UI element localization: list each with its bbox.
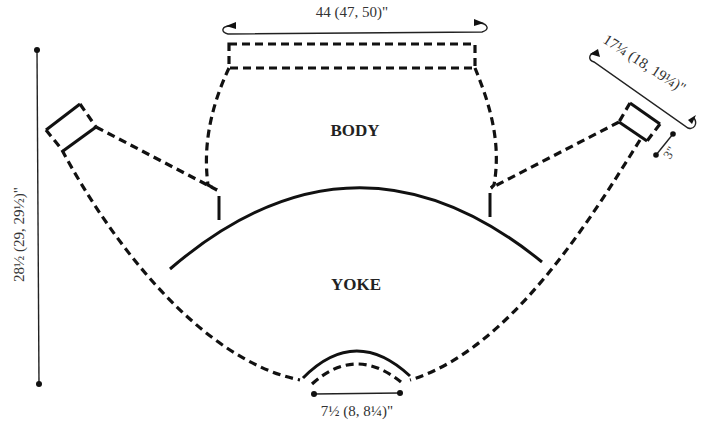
- yoke-piece: [62, 140, 640, 384]
- neck-width-line: [314, 393, 400, 394]
- right-sleeve-top: [491, 122, 619, 188]
- cuff-dot-bottom: [653, 152, 659, 158]
- length-dot-top: [34, 47, 40, 53]
- left-sleeve-top: [96, 127, 217, 190]
- cuff-dot-top: [670, 131, 676, 137]
- right-cuff-bottom-side: [647, 124, 660, 141]
- right-sleeve: [491, 103, 660, 188]
- body-width-line: [223, 23, 487, 34]
- body-width-label: 44 (47, 50)": [316, 4, 388, 21]
- yoke-left-outer: [62, 150, 300, 380]
- neck-width-label: 7½ (8, 8¼)": [321, 403, 393, 420]
- left-cuff-inner: [63, 127, 96, 151]
- right-cuff-top-side: [619, 103, 630, 122]
- neck-width-measure: 7½ (8, 8¼)": [311, 390, 403, 420]
- yoke-right-outer: [410, 140, 640, 380]
- left-cuff-edge: [46, 104, 80, 130]
- arrow-left-icon: [226, 22, 236, 29]
- sleeve-length-label: 17¼ (18, 19¼)": [600, 31, 689, 97]
- left-sleeve: [46, 104, 217, 190]
- right-cuff-inner: [619, 122, 647, 141]
- yoke-label: YOKE: [331, 275, 381, 294]
- neck-edge: [303, 351, 410, 378]
- length-dot-bottom: [36, 381, 42, 387]
- arrow-right-icon: [474, 19, 484, 26]
- neck-dot-right: [397, 390, 403, 396]
- left-cuff-top-side: [80, 104, 96, 127]
- body-left-side: [206, 68, 229, 190]
- right-cuff-edge: [630, 103, 660, 124]
- body-width-measure: 44 (47, 50)": [223, 4, 487, 34]
- neck-band: [312, 364, 401, 384]
- cuff-measure: 3": [653, 131, 679, 161]
- body-label: BODY: [330, 121, 379, 140]
- arrow-up-icon: [590, 49, 600, 57]
- schematic-canvas: 44 (47, 50)" 17¼ (18, 19¼)" 3" 28½ (29, …: [0, 0, 720, 423]
- total-length-label: 28½ (29, 29½)": [11, 187, 28, 282]
- total-length-line: [37, 50, 39, 384]
- total-length-measure: 28½ (29, 29½)": [11, 47, 42, 387]
- left-cuff-bottom-side: [46, 130, 63, 151]
- body-hem-band: [229, 44, 475, 68]
- body-right-side: [475, 68, 496, 188]
- neck-dot-left: [311, 391, 317, 397]
- yoke-lower-edge: [170, 188, 542, 269]
